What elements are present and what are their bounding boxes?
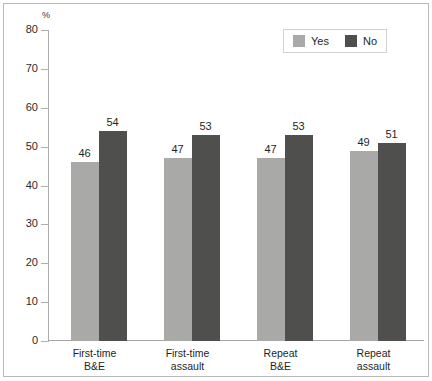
legend-label-no: No — [363, 36, 377, 47]
bar-no-1 — [192, 135, 220, 341]
y-axis-tick-label: 20 — [12, 257, 38, 268]
y-axis-tick-label: 70 — [12, 63, 38, 74]
y-axis-tick-label-wrap: 40 — [8, 186, 38, 187]
y-axis-tick-label: 50 — [12, 141, 38, 152]
bar-value-label: 53 — [285, 121, 313, 132]
y-axis-tick-label-wrap: 70 — [8, 69, 38, 70]
y-axis-tick-label-wrap: 20 — [8, 263, 38, 264]
bar-yes-1 — [164, 158, 192, 341]
legend-entry-no: No — [345, 35, 377, 47]
category-label-line: assault — [317, 360, 430, 373]
y-axis-tick-label: 30 — [12, 218, 38, 229]
y-axis-tick-label-wrap: 10 — [8, 302, 38, 303]
bar-value-label: 54 — [99, 117, 127, 128]
plot-area: 4654475347534951 — [48, 30, 420, 341]
bar-value-label: 47 — [257, 144, 285, 155]
bar-no-0 — [99, 131, 127, 341]
y-axis-unit-label: % — [42, 11, 50, 20]
y-axis-tick-label: 60 — [12, 102, 38, 113]
bar-value-label: 46 — [71, 148, 99, 159]
bar-chart-figure: % 80706050403020100 4654475347534951 Fir… — [0, 0, 432, 381]
y-axis-tick-label: 80 — [12, 24, 38, 35]
y-axis-tick-label: 40 — [12, 180, 38, 191]
y-axis-tick-label-wrap: 0 — [8, 341, 38, 342]
category-label-line: Repeat — [317, 347, 430, 360]
chart-legend: Yes No — [283, 29, 387, 53]
bar-yes-0 — [71, 162, 99, 341]
y-axis-tick-label: 0 — [12, 335, 38, 346]
y-axis-tick-label-wrap: 30 — [8, 224, 38, 225]
legend-swatch-yes — [293, 35, 305, 47]
y-axis-tick — [41, 341, 49, 342]
bar-value-label: 49 — [350, 137, 378, 148]
legend-entry-yes: Yes — [293, 35, 329, 47]
bar-yes-3 — [350, 151, 378, 341]
y-axis-tick-label: 10 — [12, 296, 38, 307]
y-axis-tick-label-wrap: 60 — [8, 108, 38, 109]
y-axis-tick-label-wrap: 80 — [8, 30, 38, 31]
bar-value-label: 51 — [378, 129, 406, 140]
bar-no-2 — [285, 135, 313, 341]
bar-value-label: 53 — [192, 121, 220, 132]
y-axis-tick-label-wrap: 50 — [8, 147, 38, 148]
bar-value-label: 47 — [164, 144, 192, 155]
legend-swatch-no — [345, 35, 357, 47]
legend-label-yes: Yes — [311, 36, 329, 47]
bar-yes-2 — [257, 158, 285, 341]
bar-no-3 — [378, 143, 406, 341]
x-axis-category-label: Repeatassault — [317, 347, 430, 373]
